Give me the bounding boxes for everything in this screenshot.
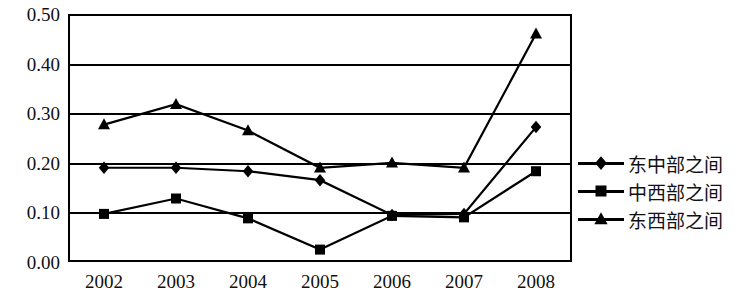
line-chart: 0.500.400.300.200.100.00 200220032004200… <box>0 0 741 302</box>
legend-item-label: 中西部之间 <box>624 178 723 205</box>
y-axis: 0.500.400.300.200.100.00 <box>0 0 60 302</box>
plot-border <box>68 14 572 262</box>
y-axis-tick-label: 0.00 <box>27 253 60 272</box>
legend-item-label: 东西部之间 <box>624 206 723 233</box>
x-axis: 2002200320042005200620072008 <box>68 266 572 302</box>
legend-item-1[interactable]: 东中部之间 <box>578 150 723 176</box>
x-axis-tick-label: 2007 <box>428 272 500 291</box>
chart-legend: 东中部之间中西部之间东西部之间 <box>578 150 741 236</box>
x-axis-tick-label: 2005 <box>284 272 356 291</box>
plot-area <box>68 14 572 262</box>
x-axis-tick-label: 2002 <box>68 272 140 291</box>
x-axis-tick-label: 2006 <box>356 272 428 291</box>
y-axis-tick-label: 0.10 <box>27 203 60 222</box>
legend-item-2[interactable]: 中西部之间 <box>578 178 723 204</box>
legend-item-label: 东中部之间 <box>624 150 723 177</box>
y-axis-tick-label: 0.40 <box>27 55 60 74</box>
x-axis-tick-label: 2004 <box>212 272 284 291</box>
triangle-marker-icon <box>578 209 624 229</box>
diamond-marker-icon <box>578 153 624 173</box>
y-axis-tick-label: 0.50 <box>27 5 60 24</box>
y-axis-tick-label: 0.30 <box>27 104 60 123</box>
y-axis-tick-label: 0.20 <box>27 154 60 173</box>
x-axis-tick-label: 2003 <box>140 272 212 291</box>
x-axis-tick-label: 2008 <box>500 272 572 291</box>
square-marker-icon <box>578 181 624 201</box>
legend-item-3[interactable]: 东西部之间 <box>578 206 723 232</box>
